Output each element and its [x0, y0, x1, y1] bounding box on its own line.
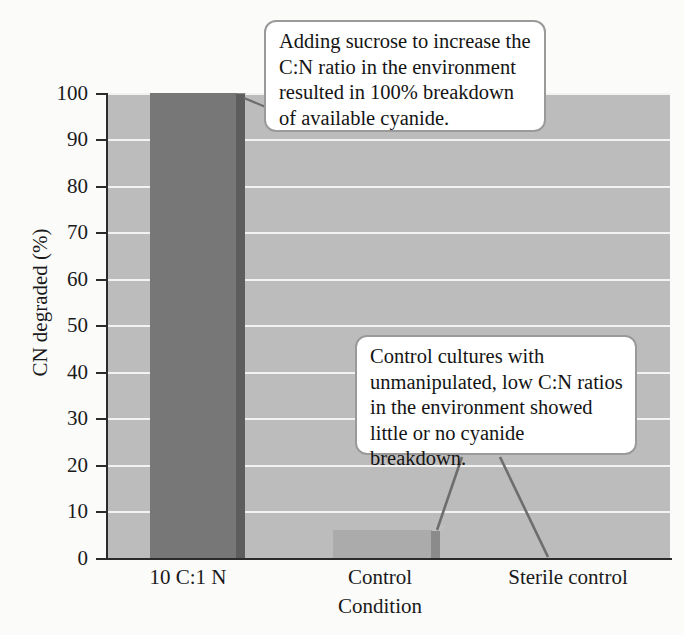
x-tick-label-control: Control — [300, 565, 460, 589]
y-tick-label-20: 20 — [18, 455, 88, 476]
x-axis-title: Condition — [300, 594, 460, 619]
callout-control-note: Control cultures with unmanipulated, low… — [355, 335, 637, 455]
callout-line-3: resulted in 100% breakdown — [279, 80, 532, 106]
plot-area — [108, 93, 670, 558]
bar-side — [431, 530, 440, 558]
y-tick-0 — [96, 558, 107, 560]
y-tick-label-100: 100 — [18, 83, 88, 104]
y-tick-10 — [96, 511, 107, 513]
callout-line-2: unmanipulated, low C:N ratios — [370, 370, 623, 396]
y-tick-70 — [96, 232, 107, 234]
y-tick-60 — [96, 279, 107, 281]
y-tick-label-10: 10 — [18, 501, 88, 522]
callout-line-3: in the environment showed — [370, 395, 623, 421]
bar-side — [236, 93, 245, 558]
bar-10c1n — [150, 93, 236, 558]
callout-line-2: C:N ratio in the environment — [279, 55, 532, 81]
y-tick-80 — [96, 186, 107, 188]
callout-sucrose-note: Adding sucrose to increase the C:N ratio… — [264, 20, 546, 132]
x-tick-label-sterile-control: Sterile control — [468, 565, 668, 589]
y-axis-title: CN degraded (%) — [28, 193, 53, 413]
y-tick-label-90: 90 — [18, 129, 88, 150]
bar-face — [150, 93, 236, 558]
y-tick-50 — [96, 325, 107, 327]
callout-line-1: Adding sucrose to increase the — [279, 29, 532, 55]
y-tick-label-0: 0 — [18, 548, 88, 569]
y-tick-90 — [96, 139, 107, 141]
callout-line-4: little or no cyanide breakdown. — [370, 421, 623, 472]
callout-line-1: Control cultures with — [370, 344, 623, 370]
y-tick-100 — [96, 93, 107, 95]
x-axis-line — [106, 558, 672, 560]
callout-line-4: of available cyanide. — [279, 106, 532, 132]
bar-face — [333, 530, 431, 558]
y-tick-40 — [96, 372, 107, 374]
bar-control — [333, 530, 431, 558]
y-tick-20 — [96, 465, 107, 467]
bar-chart-figure: 100 90 80 70 60 50 40 30 20 10 0 CN degr… — [0, 0, 684, 635]
bar-top — [431, 525, 446, 531]
y-tick-30 — [96, 418, 107, 420]
x-tick-label-10c1n: 10 C:1 N — [108, 565, 268, 589]
